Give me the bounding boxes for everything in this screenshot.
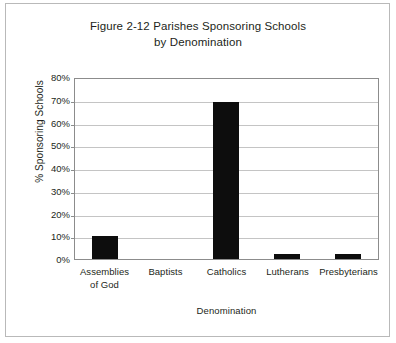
x-axis-category-label-line: Assemblies [74, 265, 135, 278]
y-axis-tick-label: 20% [34, 210, 70, 220]
y-axis-tick-label: 60% [34, 119, 70, 129]
y-axis-tick-label: 0% [34, 255, 70, 265]
bar-catholics [213, 102, 239, 259]
x-axis-title: Denomination [74, 305, 379, 316]
bar-series [75, 79, 378, 259]
x-axis-category-label-line: Presbyterians [318, 265, 379, 278]
x-axis-category-label-line: Lutherans [257, 265, 318, 278]
plot-area [74, 78, 379, 260]
chart-title-line-1: Figure 2-12 Parishes Sponsoring Schools [20, 18, 376, 34]
x-axis-category-label: Presbyterians [318, 265, 379, 291]
x-axis-category-label-line: Baptists [135, 265, 196, 278]
bar-slot [196, 79, 257, 259]
y-axis-tick-label: 50% [34, 141, 70, 151]
x-axis-category-label: Assembliesof God [74, 265, 135, 291]
figure-container: Figure 2-12 Parishes Sponsoring Schools … [0, 0, 396, 343]
x-axis-category-label-line: of God [74, 278, 135, 291]
bar-slot [257, 79, 318, 259]
bar-slot [136, 79, 197, 259]
x-axis-category-labels: Assembliesof GodBaptistsCatholicsLuthera… [74, 265, 379, 291]
x-axis-category-label: Baptists [135, 265, 196, 291]
y-axis-tick-label: 70% [34, 96, 70, 106]
bar-presbyterians [335, 254, 361, 259]
y-axis-tick-label: 40% [34, 164, 70, 174]
y-axis-tick-label: 30% [34, 187, 70, 197]
bar-slot [317, 79, 378, 259]
y-axis-tick-labels: 80%70%60%50%40%30%20%10%0% [34, 78, 70, 260]
x-axis-category-label: Lutherans [257, 265, 318, 291]
x-axis-category-label-line: Catholics [196, 265, 257, 278]
bar-lutherans [274, 254, 300, 259]
x-axis-category-label: Catholics [196, 265, 257, 291]
chart-title-line-2: by Denomination [20, 34, 376, 50]
chart-title: Figure 2-12 Parishes Sponsoring Schools … [20, 18, 376, 50]
y-axis-tick-label: 10% [34, 232, 70, 242]
bar-slot [75, 79, 136, 259]
bar-assemblies-of-god [92, 236, 118, 259]
y-axis-tick-label: 80% [34, 73, 70, 83]
